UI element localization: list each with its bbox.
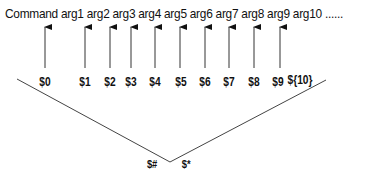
diagram-lines	[0, 0, 366, 182]
command-line-text: Command arg1 arg2 arg3 arg4 arg5 arg6 ar…	[5, 6, 343, 21]
param-label-9: $9	[272, 75, 283, 89]
param-label-8: $8	[248, 75, 259, 89]
all-args-label: $*	[182, 158, 191, 170]
param-label-4: $4	[149, 75, 160, 89]
param-label-10: ${10}	[288, 73, 313, 87]
param-label-6: $6	[199, 75, 210, 89]
param-label-0: $0	[39, 75, 50, 89]
arg-count-label: $#	[147, 158, 157, 170]
param-label-7: $7	[223, 75, 234, 89]
param-label-1: $1	[79, 75, 90, 89]
param-label-3: $3	[125, 75, 136, 89]
param-label-2: $2	[104, 75, 115, 89]
param-label-5: $5	[175, 75, 186, 89]
